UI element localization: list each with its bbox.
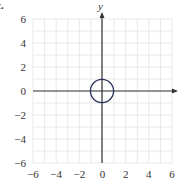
y-tick-label: 6 <box>21 13 27 25</box>
x-axis-arrow-icon <box>172 89 178 94</box>
y-tick-label: −4 <box>14 133 26 145</box>
x-tick-label: 4 <box>146 168 152 180</box>
x-tick-label: 6 <box>169 168 175 180</box>
x-tick-label: −4 <box>50 168 62 180</box>
y-axis-arrow-icon <box>100 12 105 18</box>
coordinate-plane: c. y −6−4−20246 6420−2−4−6 <box>0 0 179 181</box>
y-tick-label: 0 <box>21 85 27 97</box>
y-tick-label: −6 <box>14 157 26 169</box>
x-tick-labels: −6−4−20246 <box>27 168 175 180</box>
y-tick-label: 4 <box>21 37 27 49</box>
y-tick-labels: 6420−2−4−6 <box>14 13 26 169</box>
y-tick-label: 2 <box>21 61 27 73</box>
part-label: c. <box>0 0 4 11</box>
x-tick-label: −6 <box>27 168 39 180</box>
y-tick-label: −2 <box>14 109 26 121</box>
x-tick-label: −2 <box>73 168 85 180</box>
y-axis-label: y <box>97 0 103 12</box>
axes <box>33 12 178 163</box>
x-tick-label: 2 <box>123 168 129 180</box>
x-tick-label: 0 <box>100 168 106 180</box>
